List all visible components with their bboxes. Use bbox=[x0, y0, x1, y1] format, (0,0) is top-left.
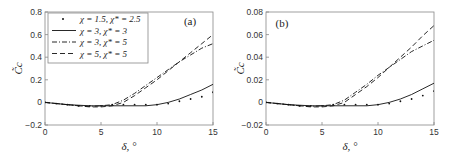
y-tick-label: 0 bbox=[37, 97, 42, 107]
legend-entry: χ = 1.5, χ* = 2.5 bbox=[79, 14, 141, 24]
series-line-solid bbox=[266, 83, 434, 106]
y-axis-label: C̃c bbox=[234, 62, 246, 74]
series-line-dashed bbox=[266, 26, 434, 107]
x-tick-label: 5 bbox=[320, 127, 325, 137]
legend-entry: χ = 3, χ* = 3 bbox=[79, 26, 128, 36]
y-tick-label: 0.02 bbox=[246, 75, 263, 85]
y-tick-label: 0.4 bbox=[30, 52, 42, 62]
y-tick-label: 0 bbox=[258, 97, 263, 107]
y-tick-label: 0.8 bbox=[30, 7, 42, 17]
legend-entry: χ = 5, χ* = 5 bbox=[79, 49, 128, 59]
data-point bbox=[123, 104, 125, 106]
legend-entry: χ = 3, χ* = 5 bbox=[79, 37, 128, 47]
y-tick-label: 0.06 bbox=[246, 30, 263, 40]
data-point bbox=[212, 91, 214, 93]
y-tick-label: 0.04 bbox=[246, 52, 263, 62]
x-axis-label: δ, ° bbox=[121, 140, 137, 152]
data-point bbox=[422, 95, 424, 97]
x-tick-label: 0 bbox=[264, 127, 269, 137]
x-axis-label: δ, ° bbox=[342, 140, 358, 152]
data-point bbox=[179, 100, 181, 102]
x-tick-label: 0 bbox=[43, 127, 48, 137]
panel-label: (b) bbox=[276, 17, 289, 30]
y-tick-label: 0.6 bbox=[30, 30, 42, 40]
legend-marker-dot bbox=[62, 18, 64, 20]
y-axis-label: C̃c bbox=[12, 62, 24, 74]
legend: χ = 1.5, χ* = 2.5χ = 3, χ* = 3χ = 3, χ* … bbox=[48, 13, 148, 63]
data-point bbox=[190, 98, 192, 100]
x-tick-label: 5 bbox=[99, 127, 104, 137]
y-tick-label: 0.08 bbox=[246, 7, 263, 17]
x-tick-label: 10 bbox=[373, 127, 383, 137]
x-tick-label: 15 bbox=[429, 127, 439, 137]
series-line-solid bbox=[45, 84, 213, 105]
x-tick-label: 10 bbox=[152, 127, 162, 137]
x-tick-label: 15 bbox=[208, 127, 218, 137]
plot-area bbox=[266, 12, 434, 125]
data-point bbox=[433, 90, 435, 92]
data-point bbox=[411, 98, 413, 100]
y-tick-label: −0.2 bbox=[25, 120, 42, 130]
y-tick-label: −0.02 bbox=[241, 120, 263, 130]
data-point bbox=[344, 104, 346, 106]
data-point bbox=[134, 104, 136, 106]
panel-a: −0.200.20.40.60.8051015δ, °C̃c(a)χ = 1.5… bbox=[12, 7, 218, 152]
y-tick-label: 0.2 bbox=[30, 75, 42, 85]
panel-label: (a) bbox=[184, 15, 197, 28]
figure: −0.200.20.40.60.8051015δ, °C̃c(a)χ = 1.5… bbox=[0, 0, 449, 159]
panel-b: −0.0200.020.040.060.08051015δ, °C̃c(b) bbox=[234, 7, 439, 152]
data-point bbox=[400, 100, 402, 102]
data-point bbox=[201, 96, 203, 98]
data-point bbox=[355, 104, 357, 106]
